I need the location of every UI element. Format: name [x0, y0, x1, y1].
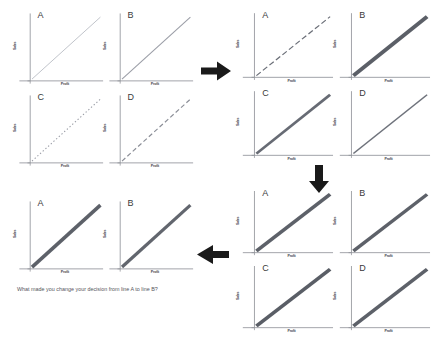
- chart-panel-stage-2-b: BProfitSales: [334, 8, 431, 86]
- stage-4-panel-group: AProfitSalesBProfitSales: [14, 196, 194, 278]
- trend-line-b: [353, 17, 427, 76]
- trend-line-b: [122, 17, 190, 79]
- trend-line-a: [256, 194, 330, 251]
- trend-line-a: [256, 17, 330, 76]
- trend-line-c: [32, 99, 100, 161]
- stage-2-panel-group: AProfitSalesBProfitSalesCProfitSalesDPro…: [237, 8, 431, 164]
- chart-panel-stage-1-b: BProfitSales: [104, 8, 194, 90]
- chart-panel-stage-2-d: DProfitSales: [334, 86, 431, 164]
- chart-panel-stage-4-a: AProfitSales: [14, 196, 104, 278]
- trend-line-d: [122, 99, 190, 161]
- chart-panel-stage-3-c: CProfitSales: [237, 261, 334, 336]
- arrow-stage3-to-stage4: [196, 243, 230, 266]
- arrow-stage2-to-stage3: [308, 164, 330, 194]
- trend-line-b: [353, 194, 427, 251]
- chart-panel-stage-3-b: BProfitSales: [334, 186, 431, 261]
- trend-line-a: [32, 205, 100, 267]
- stage-3-panel-group: AProfitSalesBProfitSalesCProfitSalesDPro…: [237, 186, 431, 336]
- chart-panel-stage-1-a: AProfitSales: [14, 8, 104, 90]
- chart-panel-stage-1-d: DProfitSales: [104, 90, 194, 172]
- reflection-question-caption: What made you change your decision from …: [17, 286, 158, 292]
- trend-line-c: [256, 269, 330, 326]
- trend-line-d: [353, 95, 427, 154]
- chart-panel-stage-1-c: CProfitSales: [14, 90, 104, 172]
- chart-panel-stage-3-a: AProfitSales: [237, 186, 334, 261]
- chart-panel-stage-3-d: DProfitSales: [334, 261, 431, 336]
- trend-line-b: [122, 205, 190, 267]
- trend-line-c: [256, 95, 330, 154]
- chart-panel-stage-2-a: AProfitSales: [237, 8, 334, 86]
- chart-panel-stage-4-b: BProfitSales: [104, 196, 194, 278]
- chart-panel-stage-2-c: CProfitSales: [237, 86, 334, 164]
- trend-line-a: [32, 17, 100, 79]
- trend-line-d: [353, 269, 427, 326]
- stage-1-panel-group: AProfitSalesBProfitSalesCProfitSalesDPro…: [14, 8, 194, 172]
- figure-canvas: AProfitSalesBProfitSalesCProfitSalesDPro…: [0, 0, 439, 342]
- arrow-stage1-to-stage2: [200, 60, 232, 82]
